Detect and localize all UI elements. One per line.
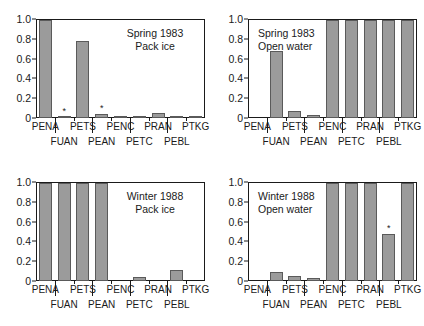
y-axis-tick-label: 1.0 [16,177,31,188]
y-axis-tick-label: 0.4 [228,236,243,247]
x-axis-label-PEBL: PEBL [376,299,402,311]
y-axis-tick-label: 1.0 [16,14,31,25]
bar-PETC [133,277,146,281]
y-axis-tick-label: 0.2 [228,256,243,267]
y-axis: 1.00.80.60.40.20 [212,19,248,118]
bar-PENA [39,20,52,118]
x-axis-label-row-primary: PENAPETSPENCPRANPTKG [36,121,205,134]
bar-PEAN [307,115,320,118]
x-axis-label-FUAN: FUAN [263,136,290,148]
x-axis-label-separator [92,284,93,296]
x-axis-label-PTKG: PTKG [182,284,209,296]
x-axis-label-separator [55,284,56,296]
y-axis-tick-label: 0 [237,276,243,287]
bar-PETC [133,116,146,118]
y-axis-tick-label: 0.6 [16,53,31,64]
x-axis-label-separator [167,121,168,133]
x-axis-label-separator [267,121,268,133]
bar-PENA [39,183,52,281]
bar-PTKG [401,20,414,118]
x-axis-label-row-primary: PENAPETSPENCPRANPTKG [248,284,417,297]
x-axis-label-FUAN: FUAN [51,136,78,148]
y-axis-tick-label: 0.8 [16,197,31,208]
y-axis: 1.00.80.60.40.20 [212,182,248,281]
y-axis-tick-label: 0 [25,276,31,287]
panel-subtitle: Open water [258,203,315,216]
x-axis-label-separator [55,121,56,133]
x-axis-label-PEBL: PEBL [164,299,190,311]
panel-annotation: Spring 1983Open water [258,27,315,53]
x-axis-label-separator [304,121,305,133]
significance-marker-PEAN: * [100,104,104,113]
bar-FUAN [270,51,283,118]
x-axis-label-PEBL: PEBL [164,136,190,148]
x-axis-label-FUAN: FUAN [263,299,290,311]
bar-FUAN [58,183,71,281]
panel-winter-1988-pack-ice: 1.00.80.60.40.20PENAPETSPENCPRANPTKGFUAN… [0,163,212,326]
bar-PEBL [382,20,395,118]
x-axis-label-separator [342,284,343,296]
bar-PRAN [364,20,377,118]
x-axis-label-row-secondary: FUANPEANPETCPEBL [248,136,417,149]
x-axis-label-PETC: PETC [126,299,153,311]
y-axis-tick-label: 1.0 [228,14,243,25]
y-axis-tick-label: 0.6 [16,216,31,227]
x-axis-label-row-secondary: FUANPEANPETCPEBL [248,299,417,312]
panel-annotation: Spring 1983Pack ice [112,27,198,53]
panel-title: Winter 1988 [112,190,198,203]
bar-PEAN [95,183,108,281]
y-axis-tick-label: 0.4 [16,236,31,247]
y-axis: 1.00.80.60.40.20 [0,182,36,281]
x-axis-label-PEAN: PEAN [88,136,115,148]
significance-marker-PEBL: * [387,224,391,233]
panel-annotation: Winter 1988Open water [258,190,315,216]
y-axis-tick-label: 0.2 [16,93,31,104]
x-axis-label-PEAN: PEAN [300,136,327,148]
bar-FUAN [270,272,283,281]
panel-annotation: Winter 1988Pack ice [112,190,198,216]
bar-PENC [326,20,339,118]
y-axis-tick-label: 0.2 [16,256,31,267]
x-axis-label-FUAN: FUAN [51,299,78,311]
y-axis-tick-label: 0.2 [228,93,243,104]
bar-PENC [326,183,339,281]
y-axis-tick-label: 0 [25,113,31,124]
panel-spring-1983-pack-ice: 1.00.80.60.40.20**PENAPETSPENCPRANPTKGFU… [0,0,212,163]
figure-bar-chart-grid: 1.00.80.60.40.20**PENAPETSPENCPRANPTKGFU… [0,0,424,326]
bar-PEAN [307,278,320,281]
y-axis-tick-label: 1.0 [228,177,243,188]
x-axis-label-PEAN: PEAN [88,299,115,311]
bar-PEAN [95,114,108,118]
y-axis-tick-label: 0.6 [228,53,243,64]
x-axis-label-separator [130,284,131,296]
bar-PETS [288,111,301,118]
x-axis-label-separator [379,284,380,296]
x-axis-label-PEBL: PEBL [376,136,402,148]
bar-PETS [288,276,301,281]
bar-FUAN [58,116,71,118]
x-axis-label-separator [267,284,268,296]
bar-PTKG [189,116,202,118]
y-axis-tick-label: 0.4 [16,73,31,84]
bar-PETC [345,183,358,281]
panel-subtitle: Pack ice [112,203,198,216]
y-axis-tick-label: 0.6 [228,216,243,227]
panel-spring-1983-open-water: 1.00.80.60.40.20PENAPETSPENCPRANPTKGFUAN… [212,0,424,163]
bar-PRAN [364,183,377,281]
panel-title: Spring 1983 [112,27,198,40]
y-axis: 1.00.80.60.40.20 [0,19,36,118]
x-axis-label-PETC: PETC [338,136,365,148]
x-axis-label-separator [167,284,168,296]
bar-PTKG [401,183,414,281]
x-axis-label-PEAN: PEAN [300,299,327,311]
y-axis-tick-label: 0.8 [16,34,31,45]
bar-PEBL [170,270,183,281]
x-axis-label-separator [130,121,131,133]
bar-PENC [114,116,127,118]
bar-PEBL [382,234,395,281]
x-axis-label-row-primary: PENAPETSPENCPRANPTKG [36,284,205,297]
x-axis-label-separator [342,121,343,133]
bar-PETC [345,20,358,118]
significance-marker-FUAN: * [62,107,66,116]
x-axis-label-row-secondary: FUANPEANPETCPEBL [36,136,205,149]
